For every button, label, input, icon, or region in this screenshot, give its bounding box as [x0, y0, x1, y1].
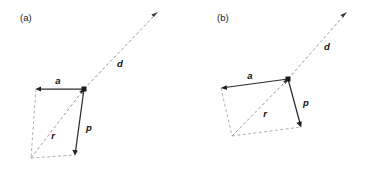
panel-b-label-d: d — [324, 41, 330, 52]
panel-a-dashed-edge-bottom — [31, 155, 75, 158]
vector-diagram-canvas: (a) a p r d (b) — [0, 0, 378, 169]
panel-b-vector-d-line — [288, 16, 343, 79]
panel-b: (b) a p r d — [217, 12, 347, 136]
panel-a-vector-d-line — [84, 16, 154, 89]
panel-b-caption: (b) — [217, 12, 229, 23]
panel-a-vector-p-line — [76, 89, 85, 152]
panel-a-caption: (a) — [20, 12, 32, 23]
panel-a-vector-p-arrowhead — [72, 150, 78, 156]
panel-b-label-p: p — [302, 97, 309, 108]
panel-a-dashed-edge-left — [31, 89, 36, 158]
panel-b-vector-p-arrowhead — [296, 121, 302, 127]
panel-a-vector-d-arrowhead — [151, 12, 158, 17]
panel-a-label-r: r — [51, 130, 56, 141]
panel-b-vector-r-line — [232, 82, 285, 136]
panel-b-vector-d-arrowhead — [340, 12, 347, 18]
panel-a: (a) a p r d — [20, 12, 158, 158]
figure-container: (a) a p r d (b) — [0, 0, 378, 169]
panel-b-label-r: r — [263, 108, 268, 119]
panel-a-vector-r-line — [31, 92, 82, 158]
panel-b-label-a: a — [247, 70, 252, 81]
panel-a-common-vertex-dot — [82, 87, 87, 92]
panel-b-dashed-edge-bottom — [232, 127, 301, 136]
panel-a-label-a: a — [55, 75, 60, 86]
panel-a-label-p: p — [85, 122, 92, 133]
panel-a-label-d: d — [117, 58, 123, 69]
panel-b-common-vertex-dot — [286, 77, 291, 82]
panel-b-dashed-edge-left — [221, 88, 232, 136]
panel-b-vector-a-line — [225, 79, 288, 88]
panel-b-vector-p-line — [288, 79, 300, 124]
